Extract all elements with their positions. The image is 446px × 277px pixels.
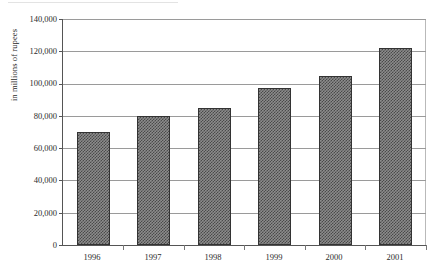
y-axis-tick-labels: 140,000 120,000 100,000 80,000 60,000 40… bbox=[10, 0, 57, 277]
x-tick-mark bbox=[305, 245, 306, 250]
plot-area bbox=[62, 19, 426, 246]
bar-series bbox=[63, 19, 426, 245]
x-tick-label-1998: 1998 bbox=[183, 252, 243, 262]
x-tick-mark bbox=[426, 245, 427, 250]
y-tick-label: 120,000 bbox=[13, 47, 57, 56]
bar-2001 bbox=[379, 48, 412, 245]
y-tick-label: 140,000 bbox=[13, 15, 57, 24]
bar-1996 bbox=[77, 132, 110, 245]
y-tick-label: 60,000 bbox=[13, 144, 57, 153]
x-tick-mark bbox=[244, 245, 245, 250]
y-tick-label: 20,000 bbox=[13, 209, 57, 218]
bar-chart: in millions of rupees 140,000 120,000 10… bbox=[0, 0, 446, 277]
bar-1999 bbox=[258, 88, 291, 245]
x-tick-mark bbox=[365, 245, 366, 250]
y-tick-label: 100,000 bbox=[13, 79, 57, 88]
y-tick-label: 40,000 bbox=[13, 176, 57, 185]
x-tick-label-1999: 1999 bbox=[244, 252, 304, 262]
x-axis-tick-labels: 1996 1997 1998 1999 2000 2001 bbox=[62, 252, 425, 266]
x-tick-label-1996: 1996 bbox=[62, 252, 122, 262]
bar-1998 bbox=[198, 108, 231, 245]
y-tick-label: 80,000 bbox=[13, 112, 57, 121]
x-tick-mark bbox=[184, 245, 185, 250]
x-tick-label-2001: 2001 bbox=[365, 252, 425, 262]
x-tick-label-1997: 1997 bbox=[123, 252, 183, 262]
bar-1997 bbox=[137, 116, 170, 245]
x-tick-label-2000: 2000 bbox=[304, 252, 364, 262]
x-tick-mark bbox=[123, 245, 124, 250]
bar-2000 bbox=[319, 76, 352, 245]
y-tick-label: 0 bbox=[13, 241, 57, 250]
y-tick-mark bbox=[59, 245, 63, 246]
